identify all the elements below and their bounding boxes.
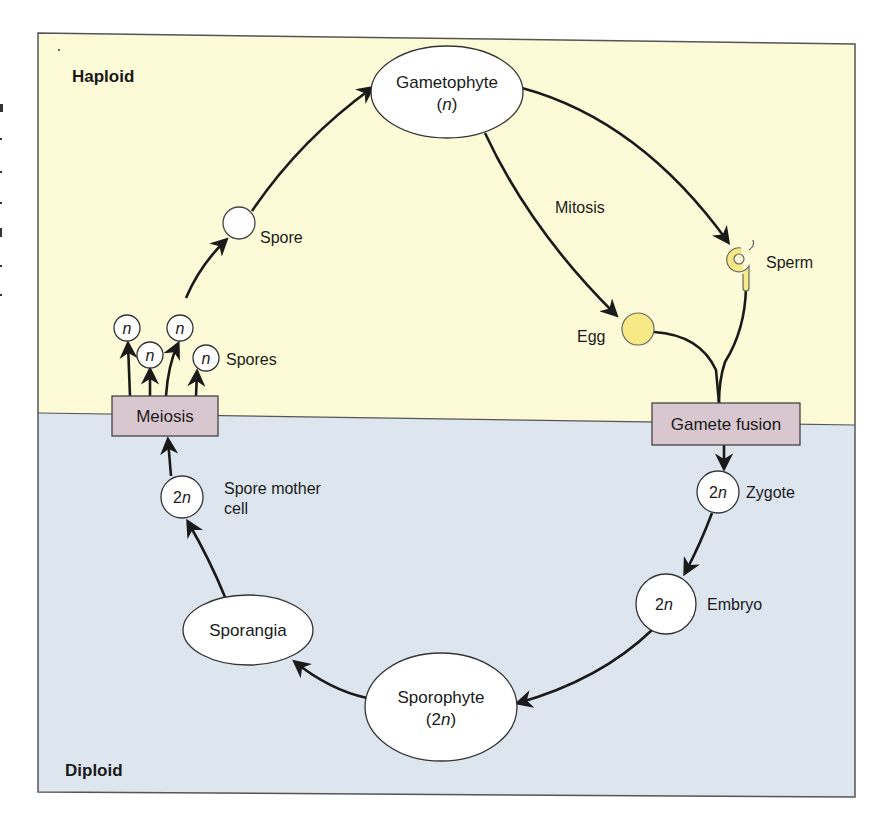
sporangia-label: Sporangia [209, 621, 287, 640]
egg-label: Egg [577, 328, 605, 345]
meiosis-label: Meiosis [136, 407, 194, 426]
svg-text:n: n [176, 320, 185, 337]
spore-mother-cell-label-2: cell [224, 500, 248, 517]
svg-text:2n: 2n [173, 489, 191, 506]
spore-n-1: n [114, 315, 140, 341]
mitosis-label: Mitosis [555, 199, 605, 216]
arrow-meiosis-to-spore-4 [196, 372, 197, 396]
zygote-label: Zygote [746, 484, 795, 501]
sperm-label: Sperm [766, 254, 813, 271]
gametophyte-label: Gametophyte [396, 73, 498, 92]
spore-n-2: n [137, 342, 163, 368]
gamete-fusion-box: Gamete fusion [652, 403, 800, 445]
life-cycle-diagram: Haploid Diploid Gametophyte (n) Mitosis … [0, 0, 871, 827]
gametophyte-node: Gametophyte (n) [371, 46, 523, 138]
spore-n-3: n [167, 315, 193, 341]
svg-text:n: n [146, 347, 155, 364]
haploid-label: Haploid [72, 67, 134, 86]
margin-text-fragments [0, 104, 3, 296]
gametophyte-ploidy: (n) [437, 95, 458, 114]
svg-text:2n: 2n [655, 596, 673, 613]
gamete-fusion-label: Gamete fusion [671, 415, 782, 434]
svg-text:2n: 2n [709, 484, 727, 501]
sporophyte-ploidy: (2n) [426, 710, 456, 729]
spore-mother-cell-label-1: Spore mother [224, 480, 322, 497]
svg-text:n: n [202, 350, 211, 367]
meiosis-box: Meiosis [112, 396, 218, 436]
sporangia-node: Sporangia [183, 595, 313, 665]
spore-label: Spore [260, 229, 303, 246]
diploid-label: Diploid [65, 761, 123, 780]
spore-n-4: n [193, 345, 219, 371]
embryo-label: Embryo [707, 596, 762, 613]
sporophyte-label: Sporophyte [398, 688, 485, 707]
spores-label: Spores [226, 351, 277, 368]
speck [58, 49, 60, 51]
svg-text:n: n [123, 320, 132, 337]
sporophyte-node: Sporophyte (2n) [365, 653, 517, 761]
